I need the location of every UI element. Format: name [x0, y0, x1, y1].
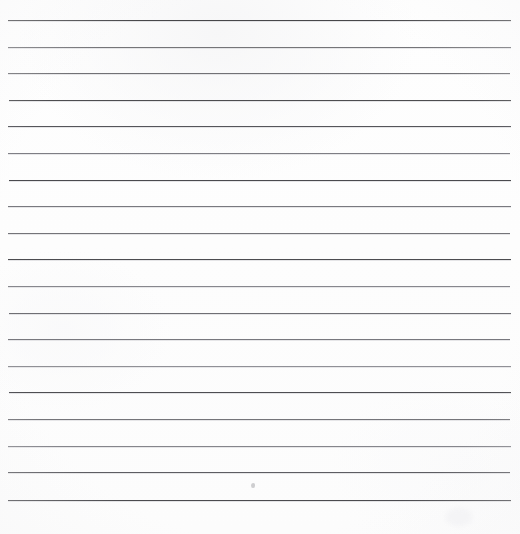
writing-area[interactable]: [8, 20, 511, 502]
paper-smudge-mark: [446, 508, 472, 526]
lined-paper-page: [0, 0, 520, 534]
